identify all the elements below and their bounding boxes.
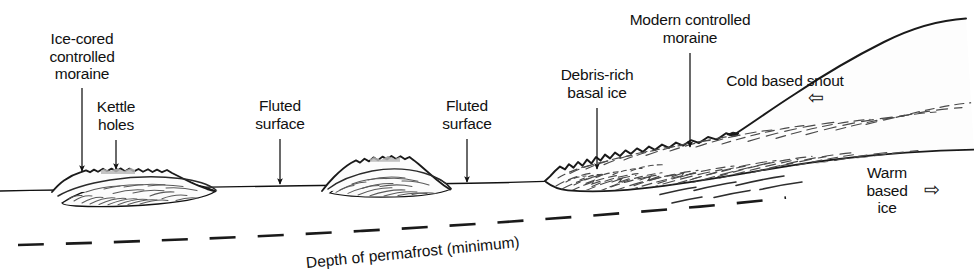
right-hollow-arrow-icon: ⇨	[924, 180, 940, 199]
label-cold-based-snout: Cold based snout	[700, 72, 870, 90]
label-fluted-surface-right: Fluted surface	[427, 97, 507, 132]
label-warm-based-ice: Warm based ice	[856, 164, 918, 217]
label-modern-controlled-moraine: Modern controlled moraine	[591, 11, 789, 46]
left-hollow-arrow-icon: ⇦	[808, 88, 824, 107]
label-kettle-holes: Kettle holes	[76, 98, 156, 133]
label-fluted-surface-left: Fluted surface	[240, 97, 320, 132]
label-debris-rich-basal-ice: Debris-rich basal ice	[537, 66, 657, 101]
glacier-cross-section-diagram: Ice-cored controlled moraine Kettle hole…	[0, 0, 974, 272]
label-ice-cored-controlled-moraine: Ice-cored controlled moraine	[12, 30, 152, 83]
